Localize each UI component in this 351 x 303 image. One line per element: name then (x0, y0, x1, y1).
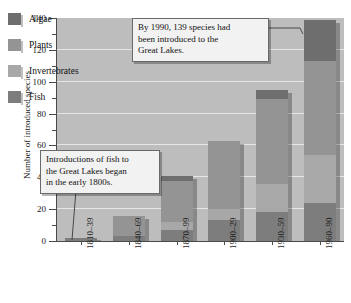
x-tick-label-2: 1840–69 (133, 218, 143, 250)
bar-segment-invertebrates (304, 155, 336, 203)
legend-swatch-fish (8, 91, 21, 103)
bar-chart: Number of introduced species 02040608010… (0, 0, 351, 303)
y-tick-label: 20 (37, 204, 46, 214)
y-tick-major (49, 241, 56, 242)
legend: Algae Plants Invertebrates Fish (8, 6, 79, 110)
y-tick-major (49, 145, 56, 146)
gridline (57, 208, 344, 209)
callout-1990-line1: By 1990, 139 species had (138, 22, 263, 34)
y-tick-label: 60 (37, 140, 46, 150)
gridline (57, 113, 344, 114)
x-tick (224, 241, 225, 245)
bar-segment-plants (256, 99, 288, 183)
legend-label-algae: Algae (29, 14, 52, 24)
bar-segment-algae (256, 90, 288, 100)
bar-segment-plants (304, 61, 336, 155)
bar-6[interactable] (304, 20, 336, 241)
y-tick-label: 80 (37, 109, 46, 119)
callout-fish: Introductions of fish to the Great Lakes… (40, 150, 160, 194)
x-tick-label-4: 1900–29 (228, 218, 238, 250)
bar-shadow (193, 179, 197, 241)
callout-1990: By 1990, 139 species had been introduced… (132, 18, 269, 62)
legend-label-invertebrates: Invertebrates (29, 66, 79, 76)
bar-shadow (145, 219, 149, 241)
callout-fish-line2: the Great Lakes began (46, 166, 154, 178)
callout-1990-line2: been introduced to the (138, 34, 263, 46)
y-tick-label: 0 (42, 236, 47, 246)
legend-label-plants: Plants (29, 40, 52, 50)
x-tick (320, 241, 321, 245)
y-tick-major (49, 209, 56, 210)
x-tick (272, 241, 273, 245)
bar-segment-invertebrates (256, 184, 288, 213)
legend-item-algae: Algae (8, 6, 79, 32)
x-tick-label-6: 1960–90 (324, 218, 334, 250)
bar-segment-plants (208, 141, 240, 209)
y-tick-major (49, 114, 56, 115)
legend-swatch-algae (8, 13, 21, 25)
legend-item-invertebrates: Invertebrates (8, 58, 79, 84)
x-tick (81, 241, 82, 245)
legend-swatch-plants (8, 39, 21, 51)
bar-segment-algae (304, 20, 336, 61)
y-tick-minor (52, 225, 56, 226)
legend-label-fish: Fish (29, 92, 45, 102)
bar-shadow (97, 240, 101, 241)
x-tick-label-1: 1810–39 (85, 218, 95, 250)
x-tick (177, 241, 178, 245)
bar-shadow (288, 93, 292, 241)
x-axis-line (56, 241, 344, 242)
gridline (57, 144, 344, 145)
x-tick-label-5: 1930–59 (276, 218, 286, 250)
callout-fish-line3: in the early 1800s. (46, 177, 154, 189)
legend-item-fish: Fish (8, 84, 79, 110)
bar-segment-plants (161, 181, 193, 222)
y-tick-minor (52, 130, 56, 131)
bar-shadow (240, 144, 244, 241)
callout-1990-line3: Great Lakes. (138, 45, 263, 57)
legend-swatch-invertebrates (8, 65, 21, 77)
gridline (57, 81, 344, 82)
x-tick (129, 241, 130, 245)
callout-fish-line1: Introductions of fish to (46, 154, 154, 166)
bar-shadow (336, 23, 340, 241)
legend-item-plants: Plants (8, 32, 79, 58)
x-tick-label-3: 1870–99 (181, 218, 191, 250)
